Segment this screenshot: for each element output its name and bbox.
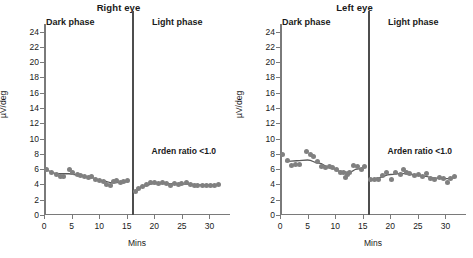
y-tick-label: 8 xyxy=(34,149,39,159)
x-tick-label: 15 xyxy=(122,221,131,231)
y-tick-label: 10 xyxy=(30,134,39,144)
x-tick-mark xyxy=(308,215,309,219)
x-tick-mark xyxy=(390,215,391,219)
chart-title: Right eye xyxy=(0,2,237,13)
data-point xyxy=(315,159,320,164)
eog-figure: Right eye0246810121416182022240510152025… xyxy=(0,0,473,258)
y-tick-label: 24 xyxy=(266,27,275,37)
x-tick-label: 25 xyxy=(177,221,186,231)
x-tick-mark xyxy=(72,215,73,219)
x-tick-mark xyxy=(154,215,155,219)
data-point xyxy=(347,170,352,175)
y-tick-label: 18 xyxy=(30,72,39,82)
x-tick-mark xyxy=(280,215,281,219)
dark-phase-label: Dark phase xyxy=(282,17,331,27)
data-point xyxy=(61,174,66,179)
chart-panel-right-eye: Right eye0246810121416182022240510152025… xyxy=(0,0,237,258)
x-tick-mark xyxy=(182,215,183,219)
x-tick-mark xyxy=(99,215,100,219)
trend-line-layer xyxy=(280,24,468,215)
x-axis-title: Mins xyxy=(280,238,466,248)
y-tick-label: 6 xyxy=(270,164,275,174)
x-tick-label: 5 xyxy=(69,221,74,231)
data-point xyxy=(398,172,403,177)
y-tick-label: 2 xyxy=(34,195,39,205)
y-tick-label: 16 xyxy=(30,88,39,98)
y-tick-label: 22 xyxy=(30,42,39,52)
x-tick-label: 10 xyxy=(94,221,103,231)
x-tick-label: 25 xyxy=(413,221,422,231)
y-tick-label: 4 xyxy=(34,179,39,189)
plot-area: 024681012141618202224051015202530Arden r… xyxy=(280,24,462,215)
x-tick-label: 10 xyxy=(330,221,339,231)
x-tick-mark xyxy=(363,215,364,219)
y-tick-label: 8 xyxy=(270,149,275,159)
light-phase-label: Light phase xyxy=(152,17,203,27)
y-tick-label: 24 xyxy=(30,27,39,37)
data-point xyxy=(285,158,290,163)
x-axis-title: Mins xyxy=(44,238,230,248)
y-tick-label: 16 xyxy=(266,88,275,98)
x-tick-label: 30 xyxy=(441,221,450,231)
y-tick-label: 22 xyxy=(266,42,275,52)
arden-ratio-annotation: Arden ratio <1.0 xyxy=(152,146,216,156)
arden-ratio-annotation: Arden ratio <1.0 xyxy=(388,146,452,156)
y-tick-label: 14 xyxy=(266,103,275,113)
x-tick-label: 15 xyxy=(358,221,367,231)
x-tick-label: 0 xyxy=(42,221,47,231)
data-point xyxy=(452,174,457,179)
y-tick-label: 4 xyxy=(270,179,275,189)
x-tick-label: 30 xyxy=(205,221,214,231)
x-tick-label: 20 xyxy=(150,221,159,231)
y-tick-label: 10 xyxy=(266,134,275,144)
y-tick-label: 0 xyxy=(270,210,275,220)
y-tick-label: 12 xyxy=(30,118,39,128)
y-tick-label: 14 xyxy=(30,103,39,113)
y-tick-label: 18 xyxy=(266,72,275,82)
data-point xyxy=(297,162,302,167)
plot-area: 024681012141618202224051015202530Arden r… xyxy=(44,24,226,215)
y-tick-label: 0 xyxy=(34,210,39,220)
y-tick-label: 2 xyxy=(270,195,275,205)
light-phase-label: Light phase xyxy=(388,17,439,27)
chart-panel-left-eye: Left eye02468101214161820222405101520253… xyxy=(236,0,473,258)
x-tick-mark xyxy=(335,215,336,219)
x-tick-mark xyxy=(209,215,210,219)
chart-title: Left eye xyxy=(236,2,473,13)
x-tick-label: 5 xyxy=(305,221,310,231)
x-tick-mark xyxy=(127,215,128,219)
y-tick-label: 6 xyxy=(34,164,39,174)
x-tick-mark xyxy=(418,215,419,219)
dark-phase-label: Dark phase xyxy=(46,17,95,27)
x-tick-mark xyxy=(445,215,446,219)
y-tick-label: 12 xyxy=(266,118,275,128)
y-tick-label: 20 xyxy=(30,57,39,67)
x-tick-mark xyxy=(44,215,45,219)
y-tick-label: 20 xyxy=(266,57,275,67)
x-tick-label: 0 xyxy=(278,221,283,231)
y-axis-title: µV/deg xyxy=(0,91,8,118)
x-tick-label: 20 xyxy=(386,221,395,231)
y-axis-title: µV/deg xyxy=(234,91,244,118)
